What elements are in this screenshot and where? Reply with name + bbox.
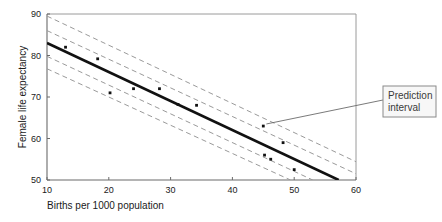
data-point xyxy=(263,154,266,157)
x-tick-label: 40 xyxy=(227,185,237,195)
data-point xyxy=(293,168,296,171)
x-tick-label: 60 xyxy=(351,185,361,195)
prediction-interval-scatter-chart: 5060708090 102030405060 Female life expe… xyxy=(0,0,442,222)
data-point xyxy=(96,57,99,60)
data-point xyxy=(269,158,272,161)
y-tick-label: 70 xyxy=(31,92,41,102)
data-point xyxy=(64,46,67,49)
data-point xyxy=(132,87,135,90)
data-point xyxy=(109,91,112,94)
data-point xyxy=(282,141,285,144)
x-tick-label: 10 xyxy=(42,185,52,195)
x-axis-title: Births per 1000 population xyxy=(47,200,164,211)
x-tick-label: 20 xyxy=(104,185,114,195)
data-point xyxy=(177,103,180,106)
y-tick-label: 80 xyxy=(31,51,41,61)
data-point xyxy=(158,87,161,90)
x-tick-label: 30 xyxy=(166,185,176,195)
annotation-label-line-1: Prediction xyxy=(388,90,432,101)
y-tick-label: 90 xyxy=(31,9,41,19)
data-point xyxy=(195,104,198,107)
y-tick-label: 50 xyxy=(31,175,41,185)
prediction-interval-annotation[interactable]: Prediction interval xyxy=(383,86,436,117)
y-axis-title: Female life expectancy xyxy=(17,46,28,148)
annotation-label-line-2: interval xyxy=(388,102,420,113)
y-tick-label: 60 xyxy=(31,134,41,144)
data-point xyxy=(262,125,265,128)
x-tick-label: 50 xyxy=(289,185,299,195)
